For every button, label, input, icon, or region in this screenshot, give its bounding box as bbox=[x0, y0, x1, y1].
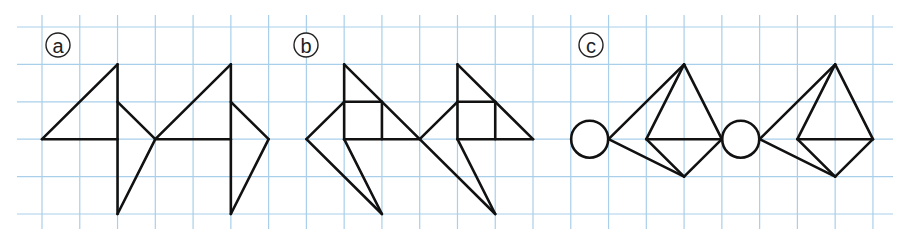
figure-circle bbox=[571, 121, 608, 158]
figure-label-text: c bbox=[586, 35, 596, 57]
figure-segment bbox=[835, 139, 873, 176]
figure-segment bbox=[118, 102, 156, 139]
figure-segment bbox=[420, 102, 458, 139]
figure-a-label: a bbox=[46, 33, 70, 57]
figure-label-text: a bbox=[52, 35, 64, 57]
figure-circle bbox=[722, 121, 759, 158]
graph-paper-grid bbox=[17, 15, 893, 229]
figure-segment bbox=[684, 139, 722, 176]
figure-b: b bbox=[294, 33, 533, 214]
figure-c-label: c bbox=[579, 33, 603, 57]
figure-label-text: b bbox=[300, 35, 311, 57]
figure-segment bbox=[646, 139, 684, 176]
figure-segment bbox=[797, 139, 835, 176]
grid-diagram-canvas: a b c bbox=[0, 0, 910, 239]
figure-segment bbox=[231, 102, 269, 139]
figure-b-label: b bbox=[294, 33, 318, 57]
figure-segment bbox=[306, 102, 344, 139]
